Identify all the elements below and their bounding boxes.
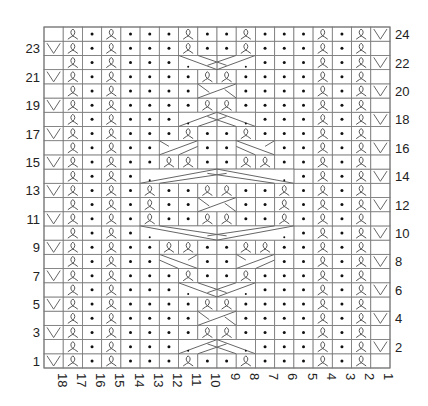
purl-dot-icon	[340, 189, 343, 192]
purl-dot-icon	[167, 132, 170, 135]
purl-dot-icon	[302, 359, 305, 362]
purl-dot-icon	[244, 189, 247, 192]
chart-cell	[371, 98, 390, 112]
chart-cell	[371, 240, 390, 254]
purl-dot-icon	[148, 303, 151, 306]
chart-row-16	[44, 141, 390, 155]
row-labels-right: 24681012141618202224	[395, 27, 409, 355]
purl-dot-icon	[340, 61, 343, 64]
knitting-chart: 1357911131517192123246810121416182022241…	[0, 0, 428, 406]
purl-dot-icon	[148, 132, 151, 135]
purl-dot-icon	[129, 331, 132, 334]
chart-row-9	[44, 240, 390, 254]
purl-dot-icon	[91, 175, 94, 178]
purl-dot-icon	[148, 345, 151, 348]
purl-dot-icon	[244, 203, 247, 206]
chart-row-15	[44, 155, 390, 169]
chart-cell	[371, 126, 390, 140]
purl-dot-icon	[283, 160, 286, 163]
purl-dot-icon	[225, 274, 228, 277]
purl-dot-icon	[283, 260, 286, 263]
purl-dot-icon	[187, 217, 190, 220]
purl-dot-icon	[283, 89, 286, 92]
purl-dot-icon	[187, 303, 190, 306]
purl-dot-icon	[91, 189, 94, 192]
purl-dot-icon	[283, 274, 286, 277]
col-label: 7	[266, 373, 281, 380]
purl-dot-icon	[225, 146, 228, 149]
chart-row-8	[44, 254, 390, 268]
purl-dot-icon	[225, 246, 228, 249]
cable-cross-icon	[179, 55, 256, 69]
purl-dot-icon	[167, 104, 170, 107]
cable-cross-icon	[179, 112, 256, 126]
purl-dot-icon	[264, 345, 267, 348]
purl-dot-icon	[129, 288, 132, 291]
purl-dot-icon	[340, 132, 343, 135]
purl-dot-icon	[91, 75, 94, 78]
purl-dot-icon	[167, 217, 170, 220]
purl-dot-icon	[283, 47, 286, 50]
cable-cross-icon	[198, 84, 236, 98]
purl-dot-icon	[129, 132, 132, 135]
purl-dot-icon	[340, 203, 343, 206]
purl-dot-icon	[340, 175, 343, 178]
purl-dot-icon	[283, 146, 286, 149]
purl-dot-icon	[302, 260, 305, 263]
purl-dot-icon	[187, 104, 190, 107]
purl-dot-icon	[91, 132, 94, 135]
row-label: 8	[395, 254, 402, 269]
purl-dot-icon	[129, 89, 132, 92]
purl-dot-icon	[264, 132, 267, 135]
purl-dot-icon	[148, 47, 151, 50]
chart-row-13	[44, 183, 390, 197]
row-label: 13	[26, 183, 40, 198]
purl-dot-icon	[187, 331, 190, 334]
purl-dot-icon	[91, 246, 94, 249]
col-labels: 181716151413121110987654321	[55, 373, 397, 387]
chart-row-24	[44, 27, 390, 41]
purl-dot-icon	[340, 359, 343, 362]
purl-dot-icon	[302, 288, 305, 291]
chart-cell	[44, 112, 63, 126]
purl-dot-icon	[187, 203, 190, 206]
purl-dot-icon	[302, 217, 305, 220]
purl-dot-icon	[187, 89, 190, 92]
chart-cell	[44, 169, 63, 183]
chart-cell	[371, 297, 390, 311]
purl-dot-icon	[264, 359, 267, 362]
col-label: 8	[247, 373, 262, 380]
col-label: 17	[74, 373, 89, 387]
purl-dot-icon	[167, 118, 170, 121]
purl-dot-icon	[148, 288, 151, 291]
chart-row-17	[44, 126, 390, 140]
row-label: 17	[26, 127, 40, 142]
purl-dot-icon	[244, 217, 247, 220]
purl-dot-icon	[129, 359, 132, 362]
purl-dot-icon	[225, 33, 228, 36]
purl-dot-icon	[91, 331, 94, 334]
purl-dot-icon	[167, 89, 170, 92]
purl-dot-icon	[129, 345, 132, 348]
row-label: 15	[26, 155, 40, 170]
purl-dot-icon	[206, 246, 209, 249]
purl-dot-icon	[91, 118, 94, 121]
row-label: 7	[33, 269, 40, 284]
purl-dot-icon	[340, 217, 343, 220]
row-label: 10	[395, 226, 409, 241]
chart-cell	[44, 141, 63, 155]
purl-dot-icon	[148, 260, 151, 263]
purl-dot-icon	[225, 132, 228, 135]
purl-dot-icon	[340, 75, 343, 78]
purl-dot-icon	[340, 118, 343, 121]
chart-cell	[44, 254, 63, 268]
purl-dot-icon	[91, 345, 94, 348]
chart-row-3	[44, 325, 390, 339]
purl-dot-icon	[340, 331, 343, 334]
col-label: 12	[170, 373, 185, 387]
col-label: 4	[324, 373, 339, 380]
purl-dot-icon	[264, 331, 267, 334]
purl-dot-icon	[264, 47, 267, 50]
purl-dot-icon	[340, 288, 343, 291]
col-label: 10	[208, 373, 223, 387]
